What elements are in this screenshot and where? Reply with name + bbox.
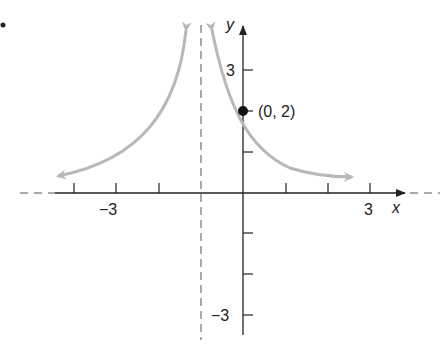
y-tick-label-3: 3 — [226, 62, 235, 79]
x-axis-label: x — [391, 199, 401, 216]
bullet-marker — [1, 23, 6, 28]
point-label: (0, 2) — [258, 103, 295, 120]
y-axis-label: y — [225, 16, 235, 33]
x-tick-label-3: 3 — [364, 201, 373, 218]
x-tick-label-neg3: −3 — [99, 201, 117, 218]
point-y-intercept — [238, 106, 248, 116]
y-tick-label-neg3: −3 — [211, 307, 229, 324]
graph: y x 3 −3 −3 3 (0, 2) — [0, 0, 440, 363]
x-ticks — [74, 183, 370, 193]
curve-left-branch — [58, 30, 186, 176]
